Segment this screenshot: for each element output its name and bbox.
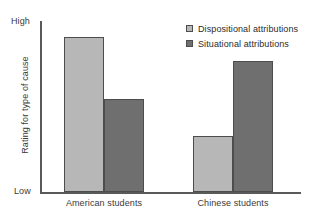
y-axis-title: Rating for type of cause [20, 35, 30, 175]
x-axis-label-chinese: Chinese students [173, 198, 293, 208]
bar-american-dispositional [64, 37, 104, 192]
bar-american-situational [104, 99, 144, 192]
legend-label-situational: Situational attributions [198, 39, 289, 49]
bar-chinese-dispositional [193, 136, 233, 192]
bar-chart: High Low Rating for type of cause Americ… [0, 0, 312, 222]
x-axis-label-american: American students [44, 198, 164, 208]
light-gray-swatch-icon [186, 25, 193, 32]
legend-label-dispositional: Dispositional attributions [198, 24, 298, 34]
dark-gray-swatch-icon [186, 40, 193, 47]
legend: Dispositional attributions Situational a… [186, 22, 298, 52]
y-axis-line [40, 21, 42, 193]
legend-item-dispositional: Dispositional attributions [186, 22, 298, 35]
y-axis-tick-low: Low [14, 186, 31, 196]
y-axis-tick-high: High [11, 16, 30, 26]
x-axis-line [40, 192, 301, 194]
bar-chinese-situational [233, 61, 273, 192]
legend-item-situational: Situational attributions [186, 37, 298, 50]
